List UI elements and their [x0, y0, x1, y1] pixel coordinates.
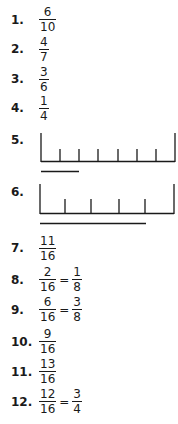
item-number: 11.: [11, 366, 32, 378]
fraction: 12 16: [39, 388, 56, 415]
fraction-answer-10: 9 16: [39, 328, 56, 355]
fraction-answer-11: 13 16: [39, 358, 56, 385]
denominator: 16: [39, 373, 56, 385]
denominator: 8: [72, 281, 82, 293]
denominator: 4: [72, 403, 82, 415]
fraction-answer-7: 11 16: [39, 235, 56, 262]
item-number: 7.: [11, 242, 24, 254]
fraction-answer-12: 12 16 = 3 4: [39, 388, 82, 415]
numerator: 3: [72, 388, 82, 400]
numerator: 1: [72, 266, 82, 278]
fraction: 6 16: [39, 296, 56, 323]
denominator: 16: [39, 250, 56, 262]
numerator: 2: [43, 266, 53, 278]
numerator: 12: [39, 388, 56, 400]
simplified-fraction: 3 4: [72, 388, 82, 415]
numerator: 11: [39, 235, 56, 247]
equals-sign: =: [59, 395, 69, 409]
denominator: 8: [72, 311, 82, 323]
numerator: 13: [39, 358, 56, 370]
item-number: 12.: [11, 396, 32, 408]
item-number: 9.: [11, 304, 24, 316]
simplified-fraction: 3 8: [72, 296, 82, 323]
fraction: 2 16: [39, 266, 56, 293]
ruler-diagram-6: [0, 0, 178, 424]
numerator: 9: [43, 328, 53, 340]
numerator: 6: [43, 296, 53, 308]
denominator: 16: [39, 403, 56, 415]
equals-sign: =: [59, 273, 69, 287]
fraction-answer-9: 6 16 = 3 8: [39, 296, 82, 323]
fraction-answer-8: 2 16 = 1 8: [39, 266, 82, 293]
item-number: 10.: [11, 336, 32, 348]
item-number: 8.: [11, 274, 24, 286]
numerator: 3: [72, 296, 82, 308]
denominator: 16: [39, 343, 56, 355]
simplified-fraction: 1 8: [72, 266, 82, 293]
denominator: 16: [39, 281, 56, 293]
equals-sign: =: [59, 303, 69, 317]
denominator: 16: [39, 311, 56, 323]
